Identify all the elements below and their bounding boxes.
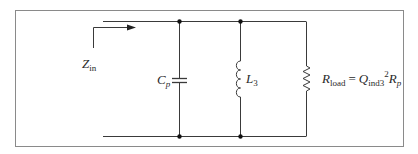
node-top-cap	[177, 19, 181, 23]
node-bottom-ind	[238, 134, 242, 138]
zin-label: Zin	[82, 56, 97, 73]
circuit-diagram: Zin Cp L3 Rload=Qind32Rp	[0, 0, 418, 154]
inductor-branch	[236, 22, 240, 137]
resistor-label: Rload=Qind32Rp	[321, 69, 402, 88]
capacitor-label: Cp	[157, 72, 171, 89]
inductor-label: L3	[245, 71, 258, 88]
capacitor-branch	[172, 22, 187, 137]
impedance-arrow-icon	[94, 25, 137, 49]
resistor-branch	[303, 22, 310, 137]
node-top-ind	[238, 19, 242, 23]
node-bottom-cap	[177, 134, 181, 138]
